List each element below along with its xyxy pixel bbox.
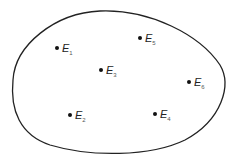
svg-text:E4: E4	[160, 108, 171, 122]
sample-space-boundary	[12, 11, 224, 154]
svg-text:E5: E5	[145, 32, 156, 46]
point-e4: E4	[153, 108, 171, 122]
svg-text:E2: E2	[75, 109, 86, 123]
svg-text:E6: E6	[194, 76, 205, 90]
svg-text:E1: E1	[62, 42, 73, 56]
point-e6: E6	[187, 76, 205, 90]
svg-text:E3: E3	[106, 64, 117, 78]
point-e5: E5	[138, 32, 156, 46]
point-e3: E3	[99, 64, 117, 78]
point-e2: E2	[68, 109, 86, 123]
point-e1: E1	[55, 42, 73, 56]
sample-space-diagram: E1 E2 E3 E4 E5 E6	[0, 0, 237, 161]
